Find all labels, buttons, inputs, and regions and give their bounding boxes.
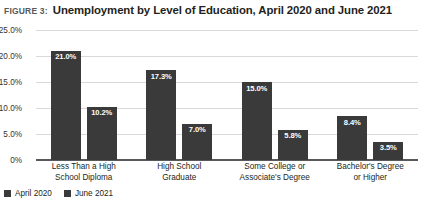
category-label-line: Some College or (227, 162, 323, 173)
bar[interactable]: 5.8% (278, 130, 308, 160)
bar-group: 17.3%7.0% (132, 30, 228, 160)
figure-number-label: FIGURE 3: (4, 6, 48, 16)
legend-swatch-icon (4, 190, 11, 197)
legend-item[interactable]: April 2020 (4, 189, 52, 198)
legend-item[interactable]: June 2021 (64, 189, 113, 198)
category-label-line: High School (132, 162, 228, 173)
category-axis-labels: Less Than a HighSchool DiplomaHigh Schoo… (36, 162, 418, 186)
category-label: High SchoolGraduate (132, 162, 228, 186)
bar-value-label: 7.0% (189, 125, 206, 134)
bar-value-label: 15.0% (246, 84, 267, 93)
category-label: Bachelor's Degreeor Higher (323, 162, 419, 186)
page-title: Unemployment by Level of Education, Apri… (53, 4, 392, 16)
y-axis-tick-label: 25.0% (0, 26, 22, 35)
category-label-line: Graduate (132, 173, 228, 184)
y-axis-tick-label: 15.0% (0, 78, 22, 87)
category-label-line: Bachelor's Degree (323, 162, 419, 173)
bar[interactable]: 7.0% (182, 124, 212, 160)
bar-group: 15.0%5.8% (227, 30, 323, 160)
bar-value-label: 21.0% (55, 52, 76, 61)
legend-swatch-icon (64, 190, 71, 197)
bar-value-label: 3.5% (380, 143, 397, 152)
bar-group: 21.0%10.2% (36, 30, 132, 160)
y-axis-tick-label: 0% (0, 156, 22, 165)
chart-plot-area: 0%5.0%10.0%15.0%20.0%25.0% 21.0%10.2%17.… (36, 30, 418, 160)
category-label-line: or Higher (323, 173, 419, 184)
bar-value-label: 10.2% (91, 108, 112, 117)
category-label-line: School Diploma (36, 173, 132, 184)
bar[interactable]: 17.3% (146, 70, 176, 160)
bar[interactable]: 15.0% (242, 82, 272, 160)
bar-value-label: 8.4% (344, 118, 361, 127)
bar-group: 8.4%3.5% (323, 30, 419, 160)
bar-value-label: 5.8% (284, 131, 301, 140)
figure-container: FIGURE 3: Unemployment by Level of Educa… (0, 0, 428, 205)
legend-label: April 2020 (15, 189, 52, 198)
category-label-line: Less Than a High (36, 162, 132, 173)
y-axis-tick-label: 10.0% (0, 104, 22, 113)
y-axis-tick-label: 20.0% (0, 52, 22, 61)
legend-label: June 2021 (75, 189, 113, 198)
bar[interactable]: 3.5% (373, 142, 403, 160)
category-label: Less Than a HighSchool Diploma (36, 162, 132, 186)
category-label: Some College orAssociate's Degree (227, 162, 323, 186)
bar-value-label: 17.3% (151, 72, 172, 81)
figure-title-row: FIGURE 3: Unemployment by Level of Educa… (4, 4, 426, 20)
bar[interactable]: 10.2% (87, 107, 117, 160)
chart-legend: April 2020June 2021 (4, 189, 113, 198)
category-label-line: Associate's Degree (227, 173, 323, 184)
y-axis-tick-label: 5.0% (0, 130, 22, 139)
bar-groups: 21.0%10.2%17.3%7.0%15.0%5.8%8.4%3.5% (36, 30, 418, 160)
bar[interactable]: 21.0% (51, 51, 81, 160)
bar[interactable]: 8.4% (337, 116, 367, 160)
